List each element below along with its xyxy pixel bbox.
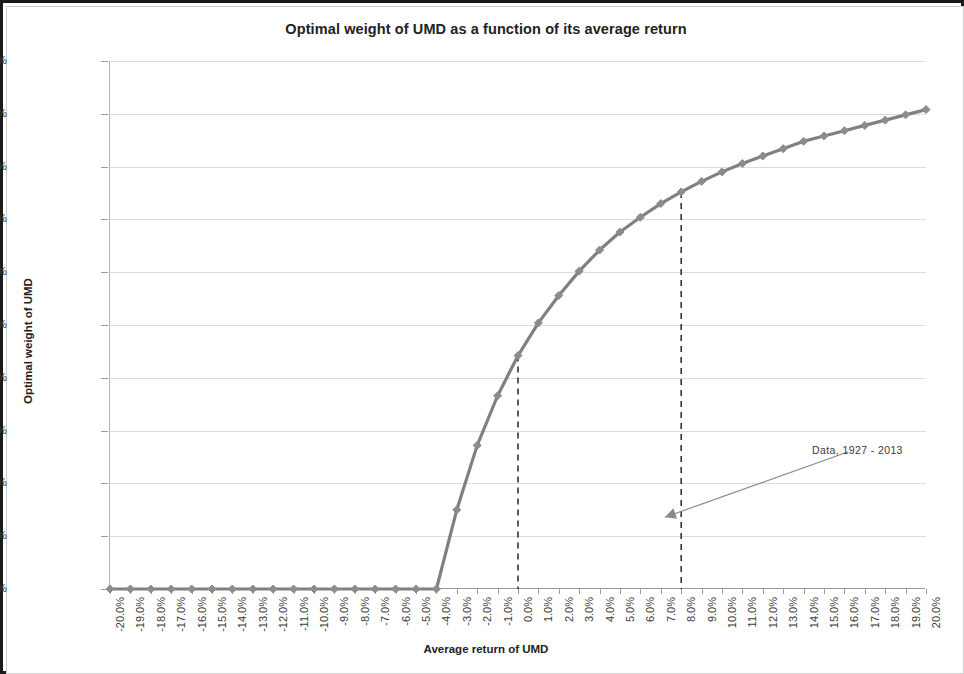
x-axis-tick-label: 15.0% [828, 597, 840, 628]
x-axis-tick-label: -3.0% [461, 597, 473, 626]
x-axis-tick-label: -14.0% [236, 597, 248, 632]
y-axis-tick [101, 272, 108, 273]
x-axis-tick [926, 589, 927, 594]
x-axis-tick-label: -9.0% [338, 597, 350, 626]
x-axis-tick [518, 589, 519, 594]
x-axis-tick-label: 20.0% [930, 597, 942, 628]
x-axis-tick-label: 14.0% [808, 597, 820, 628]
x-axis-tick-label: -6.0% [400, 597, 412, 626]
x-axis-tick-label: -7.0% [379, 597, 391, 626]
y-axis-tick [101, 431, 108, 432]
data-point-marker [392, 585, 400, 593]
x-axis-tick-label: 12.0% [767, 597, 779, 628]
x-axis-tick-label: -16.0% [196, 597, 208, 632]
plot-area: 0.0%5.0%10.0%15.0%20.0%25.0%30.0%35.0%40… [109, 61, 925, 589]
x-axis-tick-label: -5.0% [420, 597, 432, 626]
annotation-label: Data, 1927 - 2013 [812, 444, 903, 456]
y-axis-tick-label: 0.0% [0, 582, 7, 594]
x-axis-tick-label: -1.0% [502, 597, 514, 626]
data-point-marker [126, 585, 134, 593]
data-point-marker [208, 585, 216, 593]
y-axis-tick-label: 30.0% [0, 265, 7, 277]
y-axis-tick [101, 536, 108, 537]
x-axis-tick-label: -12.0% [277, 597, 289, 632]
series-markers [106, 106, 930, 593]
x-axis-tick [620, 589, 621, 594]
annotation-arrow [665, 452, 849, 519]
x-axis-tick-label: -8.0% [359, 597, 371, 626]
data-point-marker [820, 132, 828, 140]
y-axis-tick-label: 40.0% [0, 160, 7, 172]
data-point-marker [269, 585, 277, 593]
x-axis-tick-label: 13.0% [787, 597, 799, 628]
x-axis-tick-label: 7.0% [665, 597, 677, 622]
x-axis-tick [681, 589, 682, 594]
data-series-layer [110, 61, 926, 589]
x-axis-title: Average return of UMD [7, 643, 964, 655]
data-point-marker [167, 585, 175, 593]
x-axis-tick-label: 2.0% [563, 597, 575, 622]
data-point-marker [779, 145, 787, 153]
x-axis-tick [579, 589, 580, 594]
y-axis-title: Optimal weight of UMD [17, 7, 39, 674]
y-axis-tick-label: 50.0% [0, 54, 7, 66]
y-axis-tick [101, 378, 108, 379]
x-axis-tick [722, 589, 723, 594]
x-axis-tick [702, 589, 703, 594]
x-axis-tick-label: -18.0% [155, 597, 167, 632]
x-axis-tick-label: 11.0% [746, 597, 758, 627]
x-axis-tick [906, 589, 907, 594]
x-axis-tick-label: -4.0% [440, 597, 452, 626]
x-axis-tick-label: 9.0% [706, 597, 718, 622]
x-axis-tick [885, 589, 886, 594]
x-axis-tick [783, 589, 784, 594]
y-axis-tick-label: 15.0% [0, 424, 7, 436]
x-axis-tick [600, 589, 601, 594]
data-point-marker [351, 585, 359, 593]
x-axis-tick-label: 1.0% [542, 597, 554, 622]
x-axis-tick [498, 589, 499, 594]
y-axis-tick-label: 35.0% [0, 212, 7, 224]
figure-inner-border: Optimal weight of UMD as a function of i… [6, 6, 964, 674]
data-point-marker [902, 111, 910, 119]
x-axis-tick [559, 589, 560, 594]
x-axis-tick-label: -19.0% [134, 597, 146, 632]
x-axis-tick [457, 589, 458, 594]
data-point-marker [861, 121, 869, 129]
data-point-marker [840, 127, 848, 135]
y-axis-tick [101, 219, 108, 220]
y-axis-tick-label: 45.0% [0, 107, 7, 119]
y-axis-tick [101, 61, 108, 62]
x-axis-tick [844, 589, 845, 594]
x-axis-tick-label: -10.0% [318, 597, 330, 632]
x-axis-tick [742, 589, 743, 594]
y-axis-tick-label: 10.0% [0, 476, 7, 488]
data-point-marker [881, 116, 889, 124]
data-point-marker [453, 506, 461, 514]
x-axis-tick [763, 589, 764, 594]
x-axis-tick [477, 589, 478, 594]
x-axis-tick-label: 5.0% [624, 597, 636, 622]
data-point-marker [922, 106, 930, 114]
x-axis-tick-label: 6.0% [644, 597, 656, 622]
data-point-marker [371, 585, 379, 593]
data-point-marker [432, 585, 440, 593]
x-axis-tick [640, 589, 641, 594]
x-axis-tick-label: -17.0% [175, 597, 187, 632]
data-point-marker [228, 585, 236, 593]
y-axis-tick [101, 167, 108, 168]
x-axis-tick-label: 3.0% [583, 597, 595, 622]
data-point-marker [290, 585, 298, 593]
x-axis-tick-label: 0.0% [522, 597, 534, 622]
data-point-marker [188, 585, 196, 593]
y-axis-tick [101, 483, 108, 484]
data-point-marker [310, 585, 318, 593]
data-point-marker [106, 585, 114, 593]
data-point-marker [249, 585, 257, 593]
x-axis-tick [538, 589, 539, 594]
x-axis-tick-label: 10.0% [726, 597, 738, 628]
x-axis-tick [865, 589, 866, 594]
x-axis-tick-label: -20.0% [114, 597, 126, 632]
x-axis-tick-label: 16.0% [848, 597, 860, 628]
y-axis-tick [101, 114, 108, 115]
